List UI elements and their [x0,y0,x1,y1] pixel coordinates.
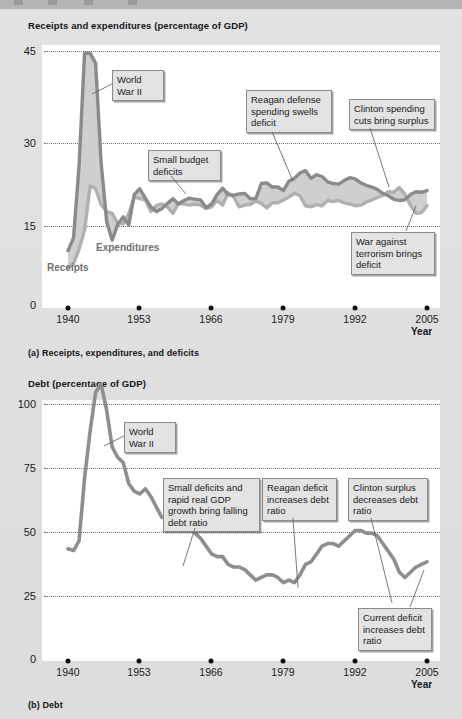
figure-a-leader-lines [0,0,462,350]
figure-b-axis-name: Year [411,679,432,690]
figure-b-caption: (b) Debt [28,700,63,710]
figure-b-leader-lines [0,360,462,680]
figure-a-caption: (a) Receipts, expenditures, and deficits [28,348,199,358]
figure-page: Receipts and expenditures (percentage of… [0,0,462,719]
